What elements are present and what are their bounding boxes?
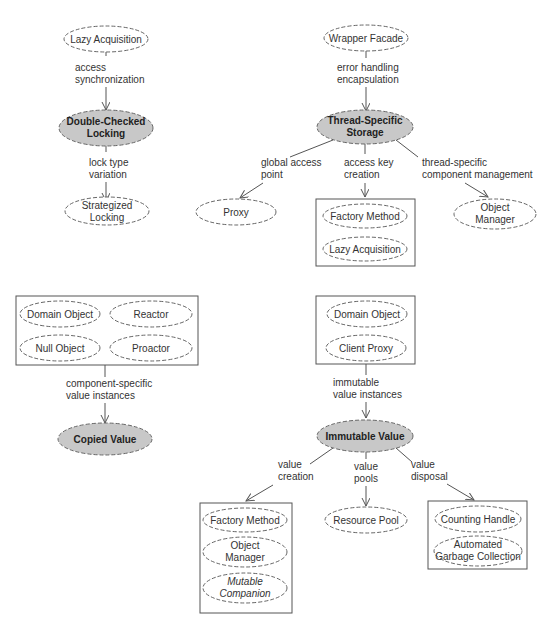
node-object-manager: Object Manager [454,199,536,229]
node-label: Domain Object [27,309,93,320]
edge-label: lock type [89,157,129,168]
edge-line [310,448,333,464]
node-label: Automated [454,539,502,550]
edge-label: point [261,169,283,180]
node-label: Manager [475,214,515,225]
edge-label: value [354,461,378,472]
edge-label: immutable [333,377,380,388]
group-box-immutable-sources: Domain Object Client Proxy [316,296,415,364]
node-label: Mutable [227,576,263,587]
node-label: Garbage Collection [435,551,521,562]
node-label: Factory Method [210,515,279,526]
edge-label: global access [261,157,322,168]
node-label: Client Proxy [339,343,393,354]
node-resource-pool: Resource Pool [325,507,407,533]
edge-line [290,140,333,157]
edge-arrow [240,183,263,198]
node-label: Storage [346,127,384,138]
edge-label: error handling [337,62,399,73]
edge-label: value instances [333,389,402,400]
edge-label: access key [344,157,393,168]
edge-label: component-specific [66,378,152,389]
edge-line [396,140,418,157]
node-label: Object [231,540,260,551]
edge-arrow [447,484,474,500]
node-label: Lazy Acquisition [329,244,401,255]
edge-label: access [75,62,106,73]
node-label: Lazy Acquisition [70,34,142,45]
node-label: Proactor [132,343,170,354]
edge-label: value [278,459,302,470]
node-double-checked-locking: Double-Checked Locking [59,110,153,146]
node-copied-value: Copied Value [58,423,152,455]
node-label: Factory Method [330,211,399,222]
group-box-access-key: Factory Method Lazy Acquisition [316,199,415,266]
node-strategized-locking: Strategized Locking [65,197,149,225]
edge-line [396,448,412,462]
node-label: Locking [90,212,124,223]
edge-label: pools [354,473,378,484]
edge-label: creation [278,471,314,482]
edge-arrow [246,485,273,501]
pattern-diagram: Lazy Acquisition access synchronization … [0,0,550,619]
node-label: Wrapper Facade [329,33,404,44]
node-lazy-acquisition: Lazy Acquisition [64,26,148,52]
group-box-copied-sources: Domain Object Reactor Null Object Proact… [16,296,198,365]
node-label: Null Object [36,343,85,354]
node-label: Double-Checked [67,116,146,127]
node-label: Thread-Specific [327,115,402,126]
node-label: Copied Value [74,434,137,445]
edge-label: encapsulation [337,74,399,85]
group-box-value-disposal: Counting Handle Automated Garbage Collec… [428,501,527,569]
node-label: Locking [87,128,125,139]
node-thread-specific-storage: Thread-Specific Storage [317,110,413,144]
node-label: Object [481,202,510,213]
edge-label: value [411,459,435,470]
edge-label: component management [422,169,533,180]
edge-label: value instances [66,390,135,401]
group-box-value-creation: Factory Method Object Manager Mutable Co… [200,503,292,613]
node-wrapper-facade: Wrapper Facade [324,25,408,51]
node-label: Reactor [133,309,169,320]
edge-label: thread-specific [422,157,487,168]
edge-arrow [465,183,488,197]
node-proxy: Proxy [196,199,276,225]
node-label: Companion [219,588,271,599]
node-label: Manager [225,552,265,563]
node-immutable-value: Immutable Value [317,420,413,452]
node-label: Domain Object [334,309,400,320]
edge-label: variation [89,169,127,180]
node-label: Immutable Value [326,431,405,442]
edge-label: disposal [411,471,448,482]
edge-label: creation [344,169,380,180]
edge-label: synchronization [75,74,144,85]
node-label: Proxy [223,207,249,218]
node-label: Strategized [82,200,133,211]
node-label: Resource Pool [333,515,399,526]
node-label: Counting Handle [441,514,516,525]
